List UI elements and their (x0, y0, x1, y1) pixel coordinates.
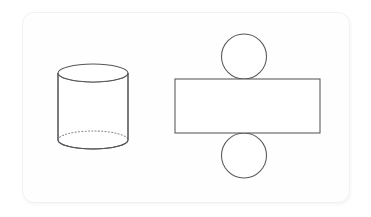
screenshot-stage: Cylinder and its net A three-dimensional… (0, 0, 371, 217)
net-circle-top (222, 34, 267, 79)
net-rectangle (175, 79, 320, 133)
geometry-figure: Cylinder and its net A three-dimensional… (0, 0, 371, 217)
cylinder-top-ellipse (58, 64, 128, 82)
net-circle-bottom (222, 133, 267, 178)
cylinder-lateral-surface (58, 73, 128, 149)
cylinder-solid (58, 64, 128, 149)
cylinder-net (175, 34, 320, 178)
